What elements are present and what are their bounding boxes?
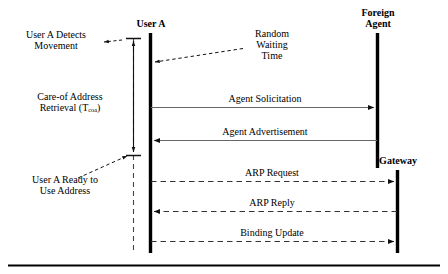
annotation-ready-to-use-address: User A Ready to Use Address xyxy=(11,174,119,196)
phase-label-care-of-address-retrieval: Care-of Address Retrieval (Tcoa) xyxy=(17,91,123,114)
annotation-detects-movement: User A Detects Movement xyxy=(8,29,104,51)
message-label-arp-request: ARP Request xyxy=(172,167,372,178)
annotation-random-waiting-time-line3: Time xyxy=(243,50,301,61)
phase-label-line2: Retrieval (Tcoa) xyxy=(17,102,123,114)
actor-label-foreign-agent: Foreign Agent xyxy=(348,7,408,29)
message-label-agent-advertisement: Agent Advertisement xyxy=(165,126,365,137)
leader-random-waiting-time xyxy=(155,49,243,63)
annotation-random-waiting-time-line1: Random xyxy=(243,28,301,39)
leader-detects-movement xyxy=(104,40,122,42)
annotation-random-waiting-time: Random Waiting Time xyxy=(243,28,301,62)
annotation-ready-line2: Use Address xyxy=(11,185,119,196)
message-label-binding-update: Binding Update xyxy=(172,227,372,238)
message-label-arp-reply: ARP Reply xyxy=(172,197,372,208)
message-label-agent-solicitation: Agent Solicitation xyxy=(165,93,365,104)
phase-label-retrieval-text: Retrieval (T xyxy=(40,102,89,113)
annotation-random-waiting-time-line2: Waiting xyxy=(243,39,301,50)
phase-label-line1: Care-of Address xyxy=(17,91,123,102)
phase-label-subscript: coa xyxy=(88,107,97,114)
actor-label-gateway: Gateway xyxy=(368,155,428,166)
sequence-diagram-figure: User A Foreign Agent Gateway User A Dete… xyxy=(0,0,448,274)
annotation-detects-movement-line1: User A Detects xyxy=(8,29,104,40)
actor-label-foreign-agent-line2: Agent xyxy=(348,18,408,29)
actor-label-foreign-agent-line1: Foreign xyxy=(348,7,408,18)
actor-label-user-a: User A xyxy=(124,18,178,29)
phase-label-closing-paren: ) xyxy=(97,102,100,113)
annotation-ready-line1: User A Ready to xyxy=(11,174,119,185)
annotation-detects-movement-line2: Movement xyxy=(8,40,104,51)
